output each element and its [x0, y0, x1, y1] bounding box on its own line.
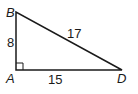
side-label-ab: 8 — [7, 35, 14, 50]
right-angle-marker — [16, 63, 23, 70]
triangle-diagram: B A D 8 15 17 — [0, 0, 138, 94]
side-label-bd: 17 — [67, 26, 81, 41]
vertex-label-b: B — [6, 5, 15, 20]
vertex-label-d: D — [117, 71, 126, 86]
side-label-ad: 15 — [48, 72, 62, 87]
triangle-abd — [16, 12, 122, 70]
vertex-label-a: A — [5, 71, 15, 86]
